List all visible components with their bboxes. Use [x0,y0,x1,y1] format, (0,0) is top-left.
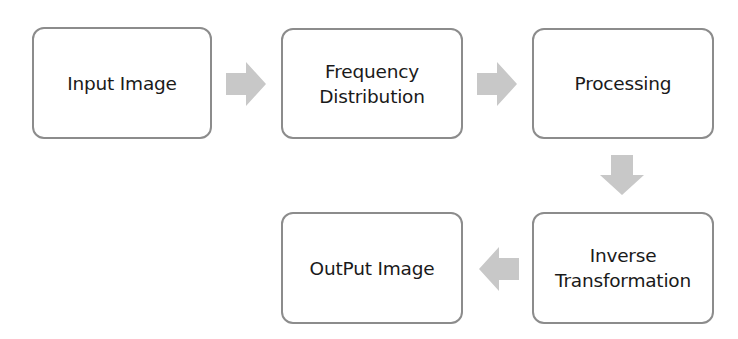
arrow-right-icon [477,62,517,106]
node-label-line-2: Distribution [319,84,425,109]
node-inverse-transformation: Inverse Transformation [532,212,714,324]
node-input-image: Input Image [32,27,212,139]
node-label: Processing [575,71,672,96]
node-label: Input Image [67,71,177,96]
node-label-line-1: Frequency [319,59,425,84]
arrow-right-icon [226,62,266,106]
node-label: OutPut Image [310,256,435,281]
node-label-line-1: Inverse [555,243,691,268]
node-processing: Processing [532,28,714,139]
arrow-down-icon [600,155,644,195]
node-output-image: OutPut Image [281,212,463,324]
node-frequency-distribution: Frequency Distribution [281,28,463,139]
arrow-left-icon [479,247,519,291]
node-label-line-2: Transformation [555,268,691,293]
